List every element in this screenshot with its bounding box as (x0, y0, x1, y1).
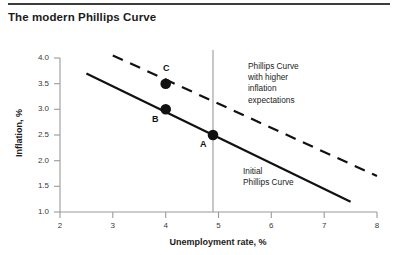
y-tick-label-4.0: 4.0 (27, 53, 49, 62)
x-tick-label-2: 2 (52, 221, 68, 230)
data-point-a (208, 130, 219, 141)
data-point-label-c: C (163, 63, 170, 73)
data-point-label-b: B (152, 114, 159, 124)
initial-curve-annotation-line-2: Phillips Curve (243, 177, 294, 188)
data-point-c (160, 78, 171, 89)
x-tick-label-5: 5 (211, 221, 227, 230)
y-tick-label-1.0: 1.0 (27, 207, 49, 216)
shifted-curve-annotation-line-1: Phillips Curve (248, 61, 299, 72)
x-tick-label-3: 3 (105, 221, 121, 230)
x-tick-label-7: 7 (316, 221, 332, 230)
x-tick-label-8: 8 (369, 221, 385, 230)
y-tick-label-3.0: 3.0 (27, 104, 49, 113)
y-tick-label-3.5: 3.5 (27, 79, 49, 88)
x-tick-label-6: 6 (263, 221, 279, 230)
initial-curve-annotation: Initial Phillips Curve (243, 166, 294, 188)
data-point-b (160, 104, 171, 115)
x-axis-ticks (60, 212, 377, 218)
x-axis-title: Unemployment rate, % (118, 237, 318, 247)
plot-canvas (0, 0, 398, 255)
shifted-curve-annotation: Phillips Curve with higher inflation exp… (248, 61, 299, 106)
initial-phillips-curve-line (86, 73, 350, 201)
y-tick-label-2.0: 2.0 (27, 156, 49, 165)
shifted-curve-annotation-line-2: with higher (248, 72, 299, 83)
y-tick-label-1.5: 1.5 (27, 181, 49, 190)
y-tick-label-2.5: 2.5 (27, 130, 49, 139)
shifted-curve-annotation-line-4: expectations (248, 95, 299, 106)
chart-figure: The modern Phillips Curve (0, 0, 398, 255)
y-axis-title: Inflation, % (14, 93, 24, 173)
initial-curve-annotation-line-1: Initial (243, 166, 294, 177)
y-axis-ticks (54, 58, 60, 212)
x-tick-label-4: 4 (158, 221, 174, 230)
shifted-curve-annotation-line-3: inflation (248, 83, 299, 94)
data-point-label-a: A (200, 139, 207, 149)
